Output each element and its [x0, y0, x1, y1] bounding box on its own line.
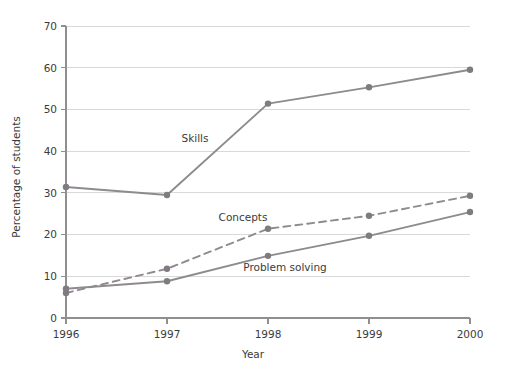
series-label-skills: Skills	[182, 132, 209, 144]
data-point	[467, 193, 473, 199]
x-tick-label: 1997	[154, 328, 181, 340]
y-tick-label: 30	[44, 187, 57, 199]
x-tick-label: 1996	[53, 328, 80, 340]
series-label-concepts: Concepts	[219, 211, 268, 223]
data-point	[164, 278, 170, 284]
data-point	[164, 266, 170, 272]
series-label-problem-solving: Problem solving	[243, 261, 327, 273]
chart-canvas: 010203040506070 19961997199819992000 Ski…	[0, 0, 507, 376]
data-point	[63, 286, 69, 292]
y-tick-label: 50	[44, 103, 57, 115]
y-tick-label: 20	[44, 228, 57, 240]
data-point	[265, 226, 271, 232]
data-point	[467, 67, 473, 73]
data-point	[467, 209, 473, 215]
data-point	[164, 192, 170, 198]
y-tick-label: 10	[44, 270, 57, 282]
line-chart: 010203040506070 19961997199819992000 Ski…	[0, 0, 507, 376]
y-tick-label: 70	[44, 20, 57, 32]
x-axis-title: Year	[241, 348, 265, 360]
y-axis-title: Percentage of students	[10, 116, 22, 237]
y-tick-label: 0	[50, 312, 57, 324]
y-tick-label: 40	[44, 145, 57, 157]
data-point	[366, 84, 372, 90]
data-point	[265, 253, 271, 259]
x-tick-label: 2000	[457, 328, 484, 340]
data-point	[63, 184, 69, 190]
x-tick-label: 1998	[255, 328, 282, 340]
y-tick-label: 60	[44, 62, 57, 74]
x-tick-label: 1999	[356, 328, 383, 340]
data-point	[366, 213, 372, 219]
data-point	[265, 100, 271, 106]
data-point	[366, 233, 372, 239]
